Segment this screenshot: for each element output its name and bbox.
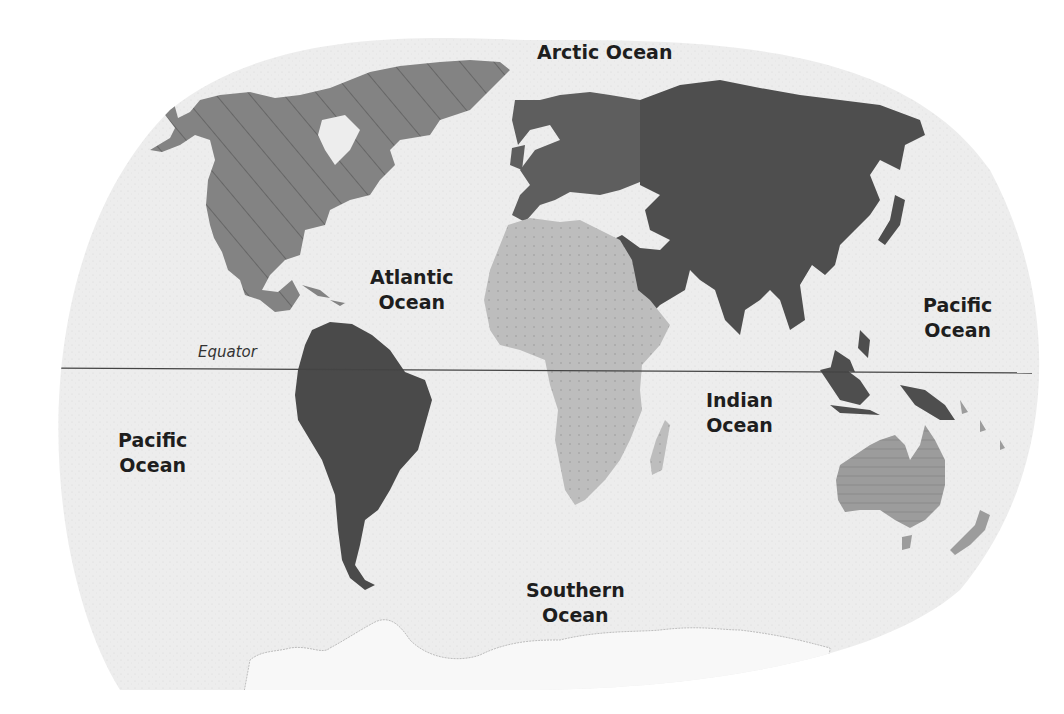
pacific-ocean-east-label: Pacific Ocean xyxy=(923,293,992,343)
southern-ocean-line2: Ocean xyxy=(526,603,625,628)
atlantic-ocean-line1: Atlantic xyxy=(370,265,454,290)
southern-ocean-label: Southern Ocean xyxy=(526,578,625,628)
arctic-ocean-text: Arctic Ocean xyxy=(537,40,672,65)
arctic-ocean-label: Arctic Ocean xyxy=(537,40,672,65)
atlantic-ocean-label: Atlantic Ocean xyxy=(370,265,454,315)
pacific-ocean-west-label: Pacific Ocean xyxy=(118,428,187,478)
indian-ocean-line2: Ocean xyxy=(706,413,773,438)
indian-ocean-line1: Indian xyxy=(706,388,773,413)
southern-ocean-line1: Southern xyxy=(526,578,625,603)
equator-label: Equator xyxy=(198,343,257,361)
pacific-ocean-west-line2: Ocean xyxy=(118,453,187,478)
pacific-ocean-east-line1: Pacific xyxy=(923,293,992,318)
indian-ocean-label: Indian Ocean xyxy=(706,388,773,438)
pacific-ocean-west-line1: Pacific xyxy=(118,428,187,453)
pacific-ocean-east-line2: Ocean xyxy=(923,318,992,343)
atlantic-ocean-line2: Ocean xyxy=(370,290,454,315)
